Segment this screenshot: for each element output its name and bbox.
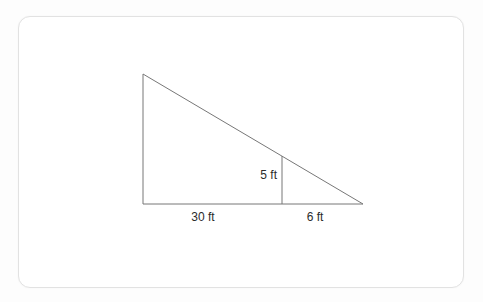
triangle-diagram: 5 ft 30 ft 6 ft — [0, 0, 483, 302]
altitude-label: 5 ft — [260, 168, 277, 182]
base-right-label: 6 ft — [307, 210, 324, 224]
triangle-hypotenuse — [143, 74, 363, 204]
base-left-label: 30 ft — [191, 210, 215, 224]
page-background: 5 ft 30 ft 6 ft — [0, 0, 483, 302]
